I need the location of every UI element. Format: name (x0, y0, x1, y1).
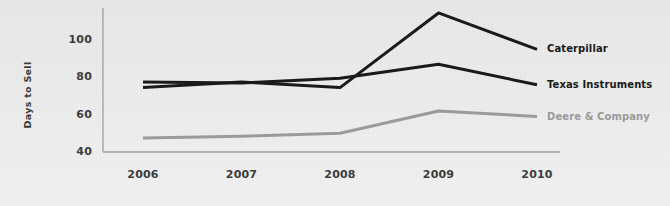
plot-area (0, 0, 670, 206)
series-line-texas-instruments (143, 64, 537, 85)
days-to-sell-line-chart: Days to Sell 406080100 20062007200820092… (0, 0, 670, 206)
series-line-caterpillar (143, 13, 537, 88)
series-label-texas-instruments: Texas Instruments (547, 79, 652, 90)
series-lines (143, 13, 537, 138)
series-line-deere-company (143, 111, 537, 138)
series-label-caterpillar: Caterpillar (547, 43, 608, 54)
series-label-deere-company: Deere & Company (547, 111, 650, 122)
